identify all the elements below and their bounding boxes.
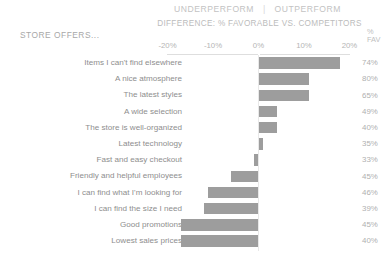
chart-bar	[254, 154, 259, 165]
row-value-label: 35%	[362, 139, 378, 148]
chart-bar	[181, 219, 258, 230]
chart-row: Items I can't find elsewhere74%	[0, 55, 389, 71]
diverging-bar-chart: UNDERPERFORM | OUTPERFORM DIFFERENCE: % …	[0, 0, 389, 253]
chart-row: A nice atmosphere80%	[0, 71, 389, 87]
performance-band: UNDERPERFORM | OUTPERFORM	[156, 2, 359, 16]
row-value-label: 80%	[362, 74, 378, 83]
chart-bar	[231, 171, 258, 182]
row-category-label: Latest technology	[119, 139, 182, 148]
row-category-label: Good promotions	[120, 220, 182, 229]
category-axis-title: STORE OFFERS...	[20, 30, 99, 40]
row-category-label: Fast and easy checkout	[97, 155, 182, 164]
x-tick-label: -10%	[204, 41, 222, 50]
row-value-label: 65%	[362, 91, 378, 100]
row-category-label: I can find the size I need	[94, 204, 182, 213]
row-value-label: 45%	[362, 172, 378, 181]
outperform-label: OUTPERFORM	[274, 4, 341, 14]
row-value-label: 40%	[362, 236, 378, 245]
chart-title: DIFFERENCE: % FAVORABLE VS. COMPETITORS	[156, 19, 363, 28]
chart-row: Fast and easy checkout33%	[0, 152, 389, 168]
row-value-label: 46%	[362, 188, 378, 197]
row-category-label: Lowest sales prices	[111, 236, 182, 245]
row-value-label: 49%	[362, 107, 378, 116]
chart-bar	[204, 203, 259, 214]
row-value-label: 40%	[362, 123, 378, 132]
chart-bar	[259, 57, 341, 68]
row-value-label: 74%	[362, 58, 378, 67]
chart-row: I can find the size I need39%	[0, 201, 389, 217]
chart-bar	[259, 138, 264, 149]
chart-bar	[181, 235, 258, 246]
chart-row: Lowest sales prices40%	[0, 233, 389, 249]
x-tick-label: 0%	[253, 41, 264, 50]
chart-row: The latest styles65%	[0, 87, 389, 103]
row-value-label: 39%	[362, 204, 378, 213]
row-category-label: The store is well-organized	[85, 123, 182, 132]
band-separator: |	[254, 4, 274, 14]
chart-bar	[259, 73, 309, 84]
chart-row: Friendly and helpful employees45%	[0, 168, 389, 184]
row-category-label: Friendly and helpful employees	[70, 171, 182, 180]
x-tick-label: 20%	[342, 41, 358, 50]
chart-row: The store is well-organized40%	[0, 120, 389, 136]
chart-row: Latest technology35%	[0, 136, 389, 152]
row-value-label: 33%	[362, 155, 378, 164]
chart-bar	[259, 122, 277, 133]
row-category-label: A wide selection	[124, 107, 182, 116]
chart-bar	[208, 187, 258, 198]
row-category-label: I can find what I'm looking for	[77, 188, 182, 197]
plot-area: Items I can't find elsewhere74%A nice at…	[0, 55, 389, 251]
row-category-label: Items I can't find elsewhere	[84, 58, 182, 67]
row-value-label: 45%	[362, 220, 378, 229]
x-tick-label: 10%	[296, 41, 312, 50]
row-category-label: A nice atmosphere	[115, 74, 182, 83]
chart-row: Good promotions45%	[0, 217, 389, 233]
row-category-label: The latest styles	[124, 90, 182, 99]
underperform-label: UNDERPERFORM	[174, 4, 254, 14]
x-tick-label: -20%	[158, 41, 176, 50]
chart-row: A wide selection49%	[0, 104, 389, 120]
x-axis-ticks: -20%-10%0%10%20%	[0, 41, 389, 53]
chart-bar	[259, 106, 277, 117]
chart-row: I can find what I'm looking for46%	[0, 185, 389, 201]
chart-bar	[259, 90, 309, 101]
